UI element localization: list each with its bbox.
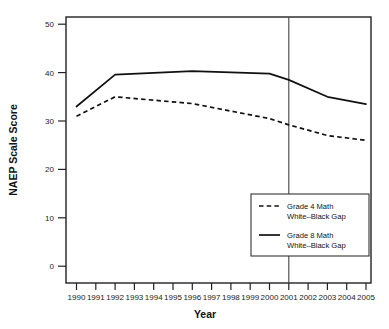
- x-tick-label: 1998: [222, 293, 240, 302]
- y-tick-label: 20: [45, 165, 54, 174]
- legend-label-line1: Grade 8 Math: [287, 231, 333, 240]
- x-tick-label: 1999: [241, 293, 259, 302]
- legend-label-line2: White–Black Gap: [287, 241, 346, 250]
- x-tick-label: 1990: [68, 293, 86, 302]
- chart-background: [0, 0, 389, 329]
- chart-container: 50 40 30 20 10 0 NAEP S: [0, 0, 389, 329]
- x-tick-label: 2000: [261, 293, 279, 302]
- x-tick-label: 2004: [338, 293, 356, 302]
- x-tick-label: 1992: [106, 293, 124, 302]
- x-tick-label: 2005: [357, 293, 375, 302]
- y-tick-label: 40: [45, 69, 54, 78]
- naep-scale-score-line-chart: 50 40 30 20 10 0 NAEP S: [0, 0, 389, 329]
- x-tick-label: 1997: [203, 293, 221, 302]
- x-tick-label: 1994: [145, 293, 163, 302]
- x-tick-label: 1993: [126, 293, 144, 302]
- x-tick-label: 1991: [87, 293, 105, 302]
- legend-label-line1: Grade 4 Math: [287, 202, 333, 211]
- x-tick-label: 2003: [319, 293, 337, 302]
- x-tick-label: 2001: [280, 293, 298, 302]
- x-tick-label: 1996: [183, 293, 201, 302]
- y-tick-label: 0: [50, 262, 55, 271]
- x-axis-title: Year: [194, 308, 216, 320]
- x-tick-label: 2002: [299, 293, 317, 302]
- y-tick-label: 50: [45, 20, 54, 29]
- y-tick-label: 30: [45, 117, 54, 126]
- chart-legend: Grade 4 Math White–Black Gap Grade 8 Mat…: [251, 194, 369, 256]
- y-axis-title: NAEP Scale Score: [7, 104, 19, 196]
- legend-label-line2: White–Black Gap: [287, 212, 346, 221]
- x-tick-label: 1995: [164, 293, 182, 302]
- y-tick-label: 10: [45, 214, 54, 223]
